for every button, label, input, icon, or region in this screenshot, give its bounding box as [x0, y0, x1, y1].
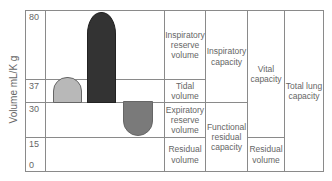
- maximal-expiration-shape: [123, 101, 153, 136]
- frame-right: [323, 10, 324, 171]
- cell-total-lung-capacity: Total lung capacity: [285, 11, 323, 171]
- tick-15: 15: [29, 140, 39, 149]
- frame-bottom: [25, 171, 324, 172]
- y-axis-label: Volume mL/K g: [8, 55, 19, 125]
- tick-80: 80: [29, 13, 39, 22]
- axis-line: [45, 10, 46, 171]
- frame-left: [25, 10, 26, 171]
- cell-expiratory-reserve-volume: Expiratory reserve volume: [165, 103, 205, 137]
- tick-30: 30: [29, 105, 39, 114]
- tick-0: 0: [29, 161, 34, 170]
- cell-tidal-volume: Tidal volume: [165, 80, 205, 102]
- tick-37: 37: [29, 82, 39, 91]
- cell-inspiratory-capacity: Inspiratory capacity: [206, 11, 247, 102]
- cell-residual-volume-2: Residual volume: [248, 138, 284, 171]
- cell-vital-capacity: Vital capacity: [248, 11, 284, 137]
- tidal-breath-shape: [53, 77, 82, 103]
- cell-inspiratory-reserve-volume: Inspiratory reserve volume: [165, 11, 205, 79]
- maximal-inspiration-shape: [87, 12, 116, 103]
- cell-residual-volume-1: Residual volume: [165, 138, 205, 171]
- cell-functional-residual-capacity: Functional residual capacity: [206, 103, 247, 171]
